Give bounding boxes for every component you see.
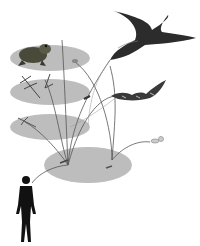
ground-layer-ellipse — [44, 147, 132, 183]
swallow-icon — [110, 10, 196, 60]
bat-icon — [111, 80, 166, 100]
small-insect-icon — [72, 59, 78, 63]
human-icon — [16, 176, 36, 242]
mosquito-icon — [151, 137, 164, 144]
diagram-svg — [0, 0, 200, 246]
ecology-diagram — [0, 0, 200, 246]
